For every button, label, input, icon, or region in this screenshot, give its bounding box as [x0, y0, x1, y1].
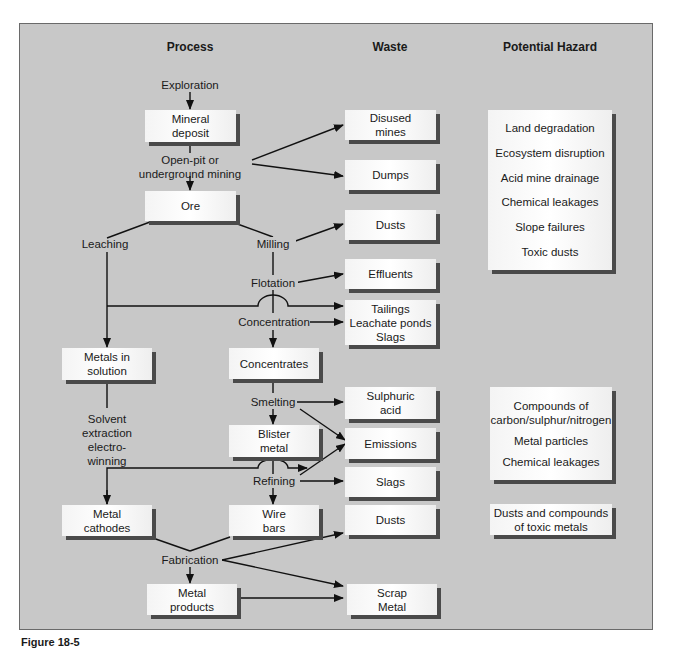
box-products-line2: products	[170, 600, 214, 614]
hazard-group-mining: Land degradation Ecosystem disruption Ac…	[488, 110, 612, 270]
label-fabrication: Fabrication	[158, 553, 222, 567]
box-products-line1: Metal	[178, 586, 206, 600]
label-solvent-line4: winning	[75, 454, 139, 468]
waste-tailings-line2: Leachate ponds	[350, 316, 432, 330]
box-concentrates-label: Concentrates	[240, 357, 308, 371]
box-ore: Ore	[145, 191, 236, 221]
waste-tailings-line1: Tailings	[371, 302, 409, 316]
label-leaching: Leaching	[75, 237, 135, 251]
label-mining-line2: underground mining	[135, 167, 245, 181]
hazard-group-fabrication: Dusts and compounds of toxic metals	[490, 504, 612, 535]
waste-sulphuric-acid: Sulphuric acid	[345, 387, 436, 419]
waste-emissions: Emissions	[345, 428, 436, 459]
box-cathodes-line1: Metal	[93, 507, 121, 521]
waste-effluents: Effluents	[345, 259, 436, 289]
hazard-chemical-leakages-2: Chemical leakages	[502, 455, 599, 469]
hazard-acid-mine-drainage: Acid mine drainage	[501, 171, 599, 185]
waste-sulphuric-line1: Sulphuric	[367, 389, 415, 403]
box-wire-bars: Wire bars	[229, 505, 319, 536]
waste-dumps: Dumps	[345, 160, 436, 190]
box-blister-line1: Blister	[258, 427, 290, 441]
hazard-dusts-line2: of toxic metals	[514, 520, 588, 534]
box-ore-label: Ore	[181, 199, 200, 213]
waste-disused-line1: Disused	[370, 111, 412, 125]
box-metal-cathodes: Metal cathodes	[62, 505, 152, 536]
waste-sulphuric-line2: acid	[380, 403, 401, 417]
waste-scrap-metal: Scrap Metal	[347, 584, 437, 615]
label-milling: Milling	[250, 237, 296, 251]
waste-disused-mines: Disused mines	[345, 110, 436, 140]
box-wire-line2: bars	[263, 521, 285, 535]
waste-slags: Slags	[345, 467, 436, 497]
waste-scrap-line2: Metal	[378, 600, 406, 614]
waste-dusts2-label: Dusts	[376, 513, 405, 527]
hazard-chemical-leakages-1: Chemical leakages	[501, 195, 598, 209]
label-solvent-line2: extraction	[75, 426, 139, 440]
hazard-compounds: Compounds of carbon/sulphur/nitrogen	[491, 399, 612, 427]
label-smelting: Smelting	[249, 395, 297, 409]
figure-caption: Figure 18-5	[21, 636, 80, 648]
label-solvent-extraction: Solvent extraction electro- winning	[75, 412, 139, 468]
box-cathodes-line2: cathodes	[84, 521, 131, 535]
waste-disused-line2: mines	[375, 125, 406, 139]
box-metals-line2: solution	[87, 364, 127, 378]
label-exploration: Exploration	[150, 78, 230, 92]
hazard-dusts-line1: Dusts and compounds	[494, 506, 608, 520]
label-flotation: Flotation	[248, 276, 298, 290]
hazard-group-smelting: Compounds of carbon/sulphur/nitrogen Met…	[490, 387, 612, 480]
waste-tailings: Tailings Leachate ponds Slags	[345, 300, 436, 345]
hazard-land-degradation: Land degradation	[505, 121, 595, 135]
waste-slags-label: Slags	[376, 475, 405, 489]
hazard-metal-particles: Metal particles	[514, 434, 588, 448]
box-concentrates: Concentrates	[229, 348, 319, 379]
box-mineral-deposit: Mineral deposit	[145, 110, 236, 142]
hazard-toxic-dusts: Toxic dusts	[522, 245, 579, 259]
waste-effluents-label: Effluents	[368, 267, 413, 281]
waste-dumps-label: Dumps	[372, 168, 408, 182]
waste-emissions-label: Emissions	[364, 437, 416, 451]
box-metals-in-solution: Metals in solution	[62, 348, 152, 380]
hazard-compounds-line1: Compounds of	[491, 399, 612, 413]
box-blister-line2: metal	[260, 441, 288, 455]
box-mineral-deposit-line1: Mineral	[172, 112, 210, 126]
label-solvent-line3: electro-	[75, 440, 139, 454]
box-metal-products: Metal products	[147, 584, 237, 615]
label-concentration: Concentration	[238, 315, 310, 329]
label-mining: Open-pit or underground mining	[135, 153, 245, 181]
box-mineral-deposit-line2: deposit	[172, 126, 209, 140]
label-refining: Refining	[251, 474, 297, 488]
waste-dusts1-label: Dusts	[376, 218, 405, 232]
waste-dusts-2: Dusts	[345, 505, 436, 535]
box-blister-metal: Blister metal	[229, 425, 319, 457]
box-metals-line1: Metals in	[84, 350, 130, 364]
hazard-compounds-line2: carbon/sulphur/nitrogen	[491, 413, 612, 427]
hazard-ecosystem-disruption: Ecosystem disruption	[495, 146, 604, 160]
hazard-slope-failures: Slope failures	[515, 220, 585, 234]
box-wire-line1: Wire	[262, 507, 286, 521]
waste-scrap-line1: Scrap	[377, 586, 407, 600]
waste-tailings-line3: Slags	[376, 330, 405, 344]
label-mining-line1: Open-pit or	[135, 153, 245, 167]
label-solvent-line1: Solvent	[75, 412, 139, 426]
waste-dusts-1: Dusts	[345, 210, 436, 240]
